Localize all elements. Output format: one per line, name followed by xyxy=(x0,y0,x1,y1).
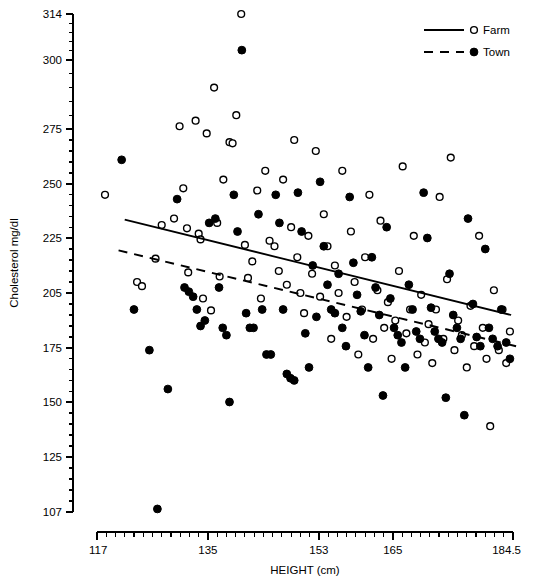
data-point-town xyxy=(316,178,324,186)
data-point-town xyxy=(460,411,468,419)
y-axis-title: Cholesterol mg/dl xyxy=(8,218,20,307)
data-point-farm xyxy=(220,176,227,183)
data-point-town xyxy=(420,189,428,197)
x-axis-tick-label: 135 xyxy=(198,544,217,556)
data-point-town xyxy=(189,293,197,301)
data-point-farm xyxy=(490,287,497,294)
data-point-town xyxy=(353,291,361,299)
data-point-farm xyxy=(185,269,192,276)
y-axis-tick-label: 125 xyxy=(43,451,62,463)
data-point-farm xyxy=(370,335,377,342)
data-point-farm xyxy=(355,351,362,358)
data-point-town xyxy=(446,270,454,278)
data-point-town xyxy=(368,253,376,261)
data-point-farm xyxy=(451,347,458,354)
data-point-farm xyxy=(320,211,327,218)
data-point-town xyxy=(255,210,263,218)
data-point-town xyxy=(449,311,457,319)
data-point-town xyxy=(154,505,162,513)
data-point-farm xyxy=(507,328,514,335)
data-point-farm xyxy=(211,84,218,91)
data-point-town xyxy=(457,335,465,343)
data-point-farm xyxy=(208,307,215,314)
data-point-farm xyxy=(238,11,245,18)
data-point-town xyxy=(272,191,280,199)
data-point-farm xyxy=(139,283,146,290)
data-point-town xyxy=(331,309,339,317)
data-point-town xyxy=(238,46,246,54)
y-axis-tick-label: 107 xyxy=(43,506,62,518)
data-point-farm xyxy=(388,355,395,362)
data-point-farm xyxy=(410,232,417,239)
data-point-town xyxy=(349,259,357,267)
data-point-farm xyxy=(351,279,358,286)
data-point-farm xyxy=(291,137,298,144)
data-point-town xyxy=(267,351,275,359)
data-point-town xyxy=(372,284,380,292)
legend-marker-farm xyxy=(471,27,478,34)
data-point-farm xyxy=(294,254,301,261)
data-point-farm xyxy=(176,123,183,130)
data-point-farm xyxy=(348,228,355,235)
data-point-town xyxy=(164,385,172,393)
data-point-town xyxy=(383,223,391,231)
data-point-town xyxy=(320,242,328,250)
y-axis-tick-label: 175 xyxy=(43,342,62,354)
data-point-town xyxy=(442,394,450,402)
data-point-farm xyxy=(377,217,384,224)
data-point-town xyxy=(485,324,493,332)
data-point-town xyxy=(193,306,201,314)
data-point-farm xyxy=(283,281,290,288)
data-point-town xyxy=(342,342,350,350)
legend-label-town: Town xyxy=(483,46,510,58)
data-point-farm xyxy=(275,268,282,275)
data-point-town xyxy=(416,335,424,343)
y-axis-tick-label: 300 xyxy=(43,54,62,66)
data-point-town xyxy=(481,245,489,253)
data-point-farm xyxy=(262,167,269,174)
data-point-town xyxy=(276,219,284,227)
data-point-town xyxy=(324,281,332,289)
data-point-town xyxy=(130,306,138,314)
data-point-farm xyxy=(403,330,410,337)
data-point-town xyxy=(211,215,219,223)
data-point-town xyxy=(494,342,502,350)
data-point-town xyxy=(201,317,209,325)
data-point-farm xyxy=(399,163,406,170)
data-point-farm xyxy=(200,295,207,302)
data-point-town xyxy=(279,306,287,314)
data-point-town xyxy=(215,284,223,292)
data-point-farm xyxy=(305,232,312,239)
x-axis-tick-label: 184.5 xyxy=(492,544,521,556)
data-point-town xyxy=(431,328,439,336)
data-point-farm xyxy=(476,232,483,239)
data-point-town xyxy=(290,377,298,385)
data-point-farm xyxy=(343,313,350,320)
data-point-town xyxy=(313,313,321,321)
data-point-farm xyxy=(271,243,278,250)
data-point-farm xyxy=(339,167,346,174)
data-point-farm xyxy=(392,317,399,324)
data-point-farm xyxy=(483,355,490,362)
data-point-farm xyxy=(366,191,373,198)
x-axis-tick-label: 117 xyxy=(89,544,107,556)
data-point-farm xyxy=(249,258,256,265)
data-point-farm xyxy=(414,351,421,358)
data-point-farm xyxy=(312,148,319,155)
data-point-town xyxy=(409,306,417,314)
data-point-farm xyxy=(180,185,187,192)
data-point-town xyxy=(230,191,238,199)
data-point-town xyxy=(405,281,413,289)
y-axis-tick-label: 314 xyxy=(43,8,63,20)
data-point-farm xyxy=(436,194,443,201)
data-point-farm xyxy=(463,364,470,371)
chart-canvas: 107125150175205225250275300314Cholestero… xyxy=(0,0,537,586)
data-point-farm xyxy=(258,295,265,302)
data-point-town xyxy=(258,306,266,314)
data-point-town xyxy=(234,228,242,236)
data-point-town xyxy=(390,324,398,332)
data-point-farm xyxy=(242,241,249,248)
legend-marker-town xyxy=(470,48,478,56)
data-point-town xyxy=(427,304,435,312)
data-point-town xyxy=(298,228,306,236)
